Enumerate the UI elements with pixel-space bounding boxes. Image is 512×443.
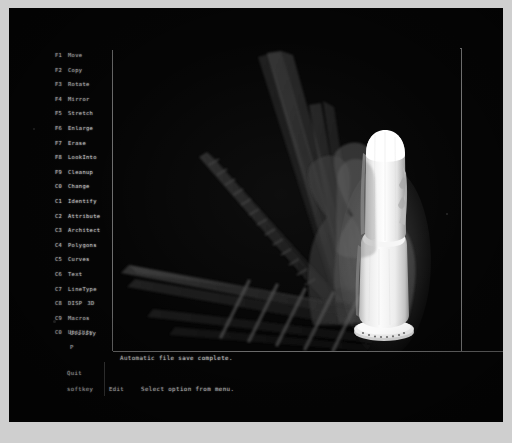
menu-item-erase[interactable]: F7 Erase [55,140,103,155]
menu-item-mirror[interactable]: F4 Mirror [55,96,103,111]
grain-speck [446,213,448,215]
menu-item-disp3d[interactable]: C8 DISP 3D [55,300,103,315]
crt-screen: F1 Move F2 Copy F3 Rotate F4 Mirror F5 S… [9,8,503,422]
menu-item-change[interactable]: C0 Change [55,183,103,198]
menu-item-label: Move [68,52,82,58]
menu-item-label: Identify [68,198,97,204]
menu-key-label: C8 [55,300,68,306]
grain-speck [33,128,35,130]
menu-item-label: Curves [68,256,90,262]
menu-item-attribute[interactable]: C2 Attribute [55,213,103,228]
menu-item-label: Stretch [68,110,93,116]
screenshot-root: F1 Move F2 Copy F3 Rotate F4 Mirror F5 S… [0,0,512,443]
menu-key-label: F5 [55,110,68,116]
menu-item-text[interactable]: C6 Text [55,271,103,286]
menu-item-label: Polygons [68,242,97,248]
menu-key-label: C1 [55,198,68,204]
menu-item-label: Text [68,271,82,277]
menu-item-enlarge[interactable]: F6 Enlarge [55,125,103,140]
viewport-right-edge [461,48,462,351]
menu-key-label: C7 [55,286,68,292]
menu-key-label: C3 [55,227,68,233]
menu-item-label: Cleanup [68,169,93,175]
softkey-label[interactable]: softkey [67,386,93,392]
graphics-viewport[interactable] [113,49,461,351]
menu-divider [112,50,113,351]
menu-item-label: Change [68,183,90,189]
menu-item-label: LineType [68,286,97,292]
active-mode-label: Utility [70,330,96,336]
menu-item-label: Attribute [68,213,100,219]
menu-item-label: Architect [68,227,100,233]
menu-item-copy[interactable]: F2 Copy [55,67,103,82]
status-area: Utility P Automatic file save complete. … [9,318,503,422]
menu-item-curves[interactable]: C5 Curves [55,256,103,271]
menu-item-extra: 3D [87,300,94,306]
grain-speck [53,320,56,323]
menu-key-label: F1 [55,52,68,58]
menu-key-label: C6 [55,271,68,277]
menu-key-label: F2 [55,67,68,73]
menu-item-label: Erase [68,140,86,146]
menu-key-label: F6 [55,125,68,131]
menu-item-label: Copy [68,67,82,73]
menu-item-linetype[interactable]: C7 LineType [55,286,103,301]
menu-key-label: F9 [55,169,68,175]
menu-key-label: C5 [55,256,68,262]
menu-key-label: F3 [55,81,68,87]
status-hint: Select option from menu. [141,386,234,392]
menu-item-label: Rotate [68,81,90,87]
menu-item-lookinto[interactable]: F8 LookInto [55,154,103,169]
menu-key-label: F4 [55,96,68,102]
status-column-divider [112,318,113,351]
command-prompt[interactable]: P [70,344,74,350]
menu-key-label: F8 [55,154,68,160]
menu-item-label: DISP [68,300,82,306]
menu-item-cleanup[interactable]: F9 Cleanup [55,169,103,184]
menu-key-label: F7 [55,140,68,146]
menu-item-move[interactable]: F1 Move [55,52,103,67]
edit-button[interactable]: Edit [109,386,124,392]
menu-item-polygons[interactable]: C4 Polygons [55,242,103,257]
menu-item-stretch[interactable]: F5 Stretch [55,110,103,125]
menu-item-architect[interactable]: C3 Architect [55,227,103,242]
menu-key-label: C0 [55,183,68,189]
model-render [113,49,461,351]
menu-key-label: C4 [55,242,68,248]
menu-item-label: LookInto [68,154,97,160]
function-key-menu[interactable]: F1 Move F2 Copy F3 Rotate F4 Mirror F5 S… [55,52,103,344]
menu-item-rotate[interactable]: F3 Rotate [55,81,103,96]
quit-button[interactable]: Quit [67,370,82,376]
menu-item-label: Mirror [68,96,90,102]
status-horizontal-rule [113,351,503,352]
menu-key-label: C2 [55,213,68,219]
menu-item-label: Enlarge [68,125,93,131]
system-message: Automatic file save complete. [120,355,233,361]
status-column-divider-2 [104,362,105,396]
menu-item-identify[interactable]: C1 Identify [55,198,103,213]
